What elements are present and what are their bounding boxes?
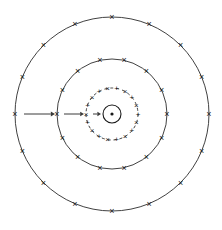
outer-shell-marker: × [72, 19, 77, 29]
inner-shell-marker: × [134, 118, 139, 127]
middle-shell-marker: × [60, 85, 65, 95]
arrow-inner-to-nucleus [93, 112, 101, 116]
outer-shell-marker: × [178, 178, 183, 188]
inner-shell-marker: × [90, 93, 95, 102]
outer-shell-marker: × [20, 72, 25, 82]
nucleus-layer [103, 105, 121, 123]
outer-shell-marker: × [206, 109, 211, 119]
nucleus-dot [110, 112, 113, 115]
inner-shell-marker: × [123, 87, 128, 96]
middle-shell-marker: × [75, 66, 80, 76]
arrow-outer-to-middle [24, 111, 55, 116]
middle-shell-marker: × [122, 55, 127, 65]
inner-shell-marker: + [97, 87, 102, 96]
outer-shell-marker: × [12, 109, 17, 119]
outer-shell-marker: × [109, 12, 114, 22]
middle-shell-marker: × [54, 109, 59, 119]
inner-shell-marker: + [85, 118, 90, 127]
inner-shell-marker: + [114, 135, 119, 144]
atom-diagram-canvas: ×+×+×+×+×+×+×+×+×+××××××××××××××××××××××… [0, 0, 222, 230]
middle-shell-marker: × [75, 152, 80, 162]
inner-shell-marker: × [90, 126, 95, 135]
middle-shell-marker: × [159, 133, 164, 143]
arrow-layer [24, 111, 101, 116]
middle-shell-marker: × [164, 109, 169, 119]
outer-shell-marker: × [41, 40, 46, 50]
inner-shell-marker: × [84, 110, 89, 119]
inner-shell-marker: + [136, 110, 141, 119]
outer-shell-marker: × [20, 146, 25, 156]
atom-diagram: ×+×+×+×+×+×+×+×+×+××××××××××××××××××××××… [0, 0, 222, 230]
middle-shell-marker: × [60, 133, 65, 143]
inner-shell-marker: + [130, 126, 135, 135]
middle-shell-marker: × [159, 85, 164, 95]
outer-shell-marker: × [178, 40, 183, 50]
middle-shell-marker: × [122, 163, 127, 173]
outer-shell-marker: × [109, 206, 114, 216]
inner-shell-marker: × [105, 135, 110, 144]
inner-shell-marker: + [114, 84, 119, 93]
inner-shell-marker: × [105, 84, 110, 93]
arrow-inner-to-nucleus-head [97, 112, 101, 116]
outer-shell-marker: × [41, 178, 46, 188]
outer-shell-marker: × [146, 19, 151, 29]
inner-shell-marker: + [85, 101, 90, 110]
inner-shell-marker: + [97, 132, 102, 141]
inner-shell-marker: × [134, 101, 139, 110]
outer-shell-marker: × [72, 199, 77, 209]
outer-shell-marker: × [146, 199, 151, 209]
middle-shell-marker: × [97, 55, 102, 65]
middle-shell-marker: × [144, 152, 149, 162]
inner-shell-marker: × [123, 132, 128, 141]
middle-shell-marker: × [97, 163, 102, 173]
arrow-middle-to-inner [64, 112, 84, 117]
nucleus [103, 105, 121, 123]
outer-shell-marker: × [199, 72, 204, 82]
middle-shell-marker: × [144, 66, 149, 76]
outer-shell-marker: × [199, 146, 204, 156]
